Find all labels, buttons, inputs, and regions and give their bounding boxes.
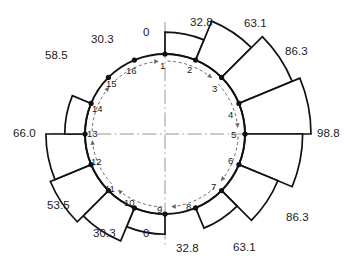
- node-dot-7: [219, 188, 224, 193]
- node-dot-9: [162, 211, 167, 216]
- node-dot-6: [236, 162, 241, 167]
- node-label-1: 1: [160, 61, 165, 71]
- node-label-12: 12: [91, 157, 102, 167]
- sector-value-label-5: 86.3: [286, 212, 309, 224]
- sector-value-label-13: 30.3: [91, 34, 114, 46]
- node-dot-1: [162, 51, 167, 56]
- node-dot-5: [242, 131, 247, 136]
- node-dot-2: [193, 57, 198, 62]
- node-label-7: 7: [211, 182, 216, 192]
- sector-value-label-10: 53.5: [47, 200, 70, 212]
- circular-sector-diagram: [0, 0, 350, 263]
- sector-value-label-11: 66.0: [13, 128, 36, 140]
- node-label-3: 3: [212, 84, 217, 94]
- node-dot-4: [236, 101, 241, 106]
- node-dot-3: [219, 75, 224, 80]
- direction-arrowhead: [118, 190, 123, 195]
- node-label-15: 15: [106, 79, 117, 89]
- sector-value-label-12: 58.5: [45, 50, 68, 62]
- node-label-4: 4: [228, 110, 233, 120]
- sector-value-label-9: 30.3: [93, 228, 116, 240]
- sector-value-label-3: 86.3: [285, 46, 308, 58]
- diagram-canvas: 32.863.186.398.886.363.132.8030.353.566.…: [0, 0, 350, 263]
- sector-value-label-7: 32.8: [176, 243, 199, 255]
- node-label-2: 2: [187, 65, 192, 75]
- direction-arrowhead: [90, 140, 95, 145]
- direction-arrowhead: [154, 59, 159, 64]
- direction-arc: [115, 61, 158, 80]
- node-label-11: 11: [105, 184, 115, 194]
- node-label-8: 8: [186, 202, 191, 212]
- node-label-16: 16: [126, 66, 137, 76]
- sector-value-label-14: 0: [143, 27, 150, 39]
- node-dot-8: [193, 205, 198, 210]
- direction-arrowhead: [235, 123, 240, 128]
- sector-value-label-8: 0: [143, 228, 150, 240]
- direction-arrowhead: [221, 176, 226, 181]
- node-label-6: 6: [228, 156, 233, 166]
- node-label-13: 13: [87, 129, 98, 139]
- direction-arrowhead: [171, 204, 176, 209]
- direction-arrowhead: [207, 73, 212, 78]
- node-dot-16: [132, 57, 137, 62]
- sector-value-label-4: 98.8: [317, 128, 340, 140]
- node-label-14: 14: [92, 104, 103, 114]
- sector-value-label-1: 32.8: [190, 17, 213, 29]
- node-label-5: 5: [231, 130, 236, 140]
- node-label-9: 9: [157, 205, 162, 215]
- node-label-10: 10: [124, 198, 135, 208]
- sector-value-label-6: 63.1: [233, 242, 256, 254]
- sector-value-label-2: 63.1: [244, 18, 267, 30]
